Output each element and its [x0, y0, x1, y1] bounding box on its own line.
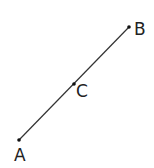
label-c: C: [76, 81, 88, 101]
diagram-canvas: B C A: [0, 0, 154, 168]
point-a: [17, 138, 21, 142]
point-b: [127, 25, 131, 29]
label-a: A: [14, 145, 26, 165]
label-b: B: [134, 19, 146, 39]
